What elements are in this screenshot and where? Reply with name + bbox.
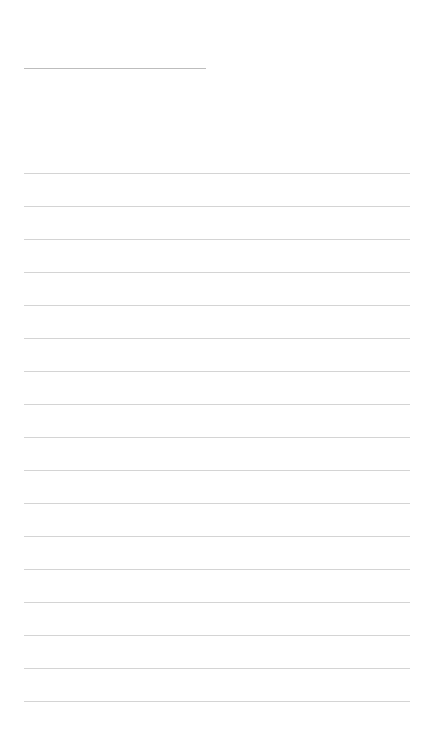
ruled-line <box>24 239 410 240</box>
ruled-line <box>24 635 410 636</box>
ruled-line <box>24 569 410 570</box>
ruled-line <box>24 503 410 504</box>
ruled-line <box>24 338 410 339</box>
ruled-line <box>24 437 410 438</box>
ruled-line <box>24 701 410 702</box>
ruled-line <box>24 470 410 471</box>
ruled-line <box>24 272 410 273</box>
title-line <box>24 68 206 69</box>
ruled-line <box>24 536 410 537</box>
ruled-line <box>24 173 410 174</box>
ruled-line <box>24 206 410 207</box>
ruled-line <box>24 668 410 669</box>
ruled-line <box>24 404 410 405</box>
ruled-line <box>24 371 410 372</box>
ruled-line <box>24 305 410 306</box>
ruled-line <box>24 602 410 603</box>
